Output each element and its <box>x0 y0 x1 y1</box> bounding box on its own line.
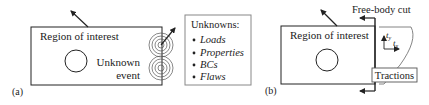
event-label-line1: Unknown <box>97 56 141 68</box>
panel-label-a: (a) <box>12 86 23 98</box>
unknowns-box: Unknowns: Loads Properties BCs Flaws <box>185 15 251 85</box>
event-label-line2: event <box>116 69 140 81</box>
hole-b <box>316 49 338 71</box>
region-label-b: Region of interest <box>290 29 369 41</box>
unknown-item: Flaws <box>199 71 226 82</box>
wave-rings-icon <box>149 33 173 80</box>
unknown-item: Loads <box>199 34 226 45</box>
unknown-item: Properties <box>199 47 244 58</box>
motion-arrow-b <box>321 10 337 26</box>
figure: Region of interest Unknown event (a) Unk… <box>0 0 429 105</box>
hole-a <box>65 50 87 72</box>
unknown-item: BCs <box>200 59 218 70</box>
unknowns-title: Unknowns: <box>191 19 240 30</box>
ty-label: ty <box>386 30 392 41</box>
motion-arrow-a <box>71 11 88 27</box>
panel-a: Region of interest Unknown event (a) Unk… <box>12 11 251 98</box>
panel-label-b: (b) <box>265 85 277 97</box>
region-label-a: Region of interest <box>40 30 119 42</box>
tx-label: tx <box>393 38 399 49</box>
cut-label: Free-body cut <box>352 4 411 15</box>
panel-b: Region of interest Free-body cut ty tx T… <box>265 4 417 97</box>
tractions-label: Tractions <box>375 70 414 81</box>
